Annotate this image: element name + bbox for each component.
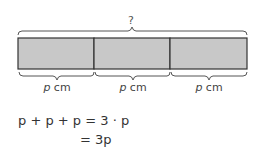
segment-1 (18, 38, 94, 69)
equation-line-2: = 3p (80, 132, 112, 147)
bottom-brace-3 (171, 72, 247, 80)
segment-3 (170, 38, 247, 69)
segment-2 (94, 38, 170, 69)
bottom-brace-1 (19, 72, 94, 80)
segment-label-2: p cm (95, 81, 171, 94)
bottom-brace-2 (95, 72, 170, 80)
unknown-total-label: ? (126, 14, 136, 27)
top-brace (18, 27, 247, 35)
segment-label-1: p cm (19, 81, 95, 94)
segment-label-3: p cm (171, 81, 247, 94)
equation-line-1: p + p + p = 3 · p (18, 113, 129, 128)
